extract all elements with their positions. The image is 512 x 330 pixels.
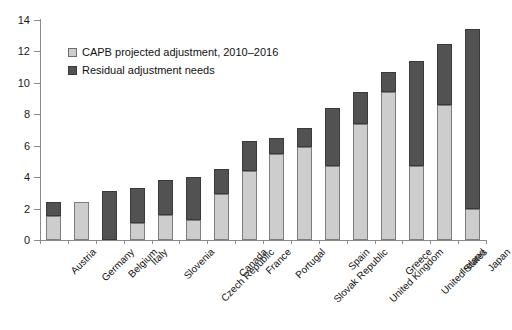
bar-segment-capb (186, 220, 201, 240)
bar-segment-capb (242, 171, 257, 240)
y-axis-tick-label: 8 (4, 109, 30, 120)
y-axis-tick-label: 0 (4, 235, 30, 246)
bar-segment-residual (158, 180, 173, 215)
x-axis-tick (458, 240, 459, 244)
bar-segment-capb (465, 209, 480, 240)
bar-segment-capb (269, 154, 284, 240)
bar-segment-residual (102, 191, 117, 240)
bar-segment-residual (186, 177, 201, 219)
x-axis-tick (124, 240, 125, 244)
bar-group (465, 20, 480, 240)
bar-segment-capb (409, 166, 424, 240)
bar-segment-capb (74, 202, 89, 240)
legend-label-residual: Residual adjustment needs (82, 65, 215, 76)
bar-segment-residual (381, 72, 396, 92)
bar-segment-residual (409, 61, 424, 166)
legend-label-capb: CAPB projected adjustment, 2010–2016 (82, 47, 278, 58)
chart-legend: CAPB projected adjustment, 2010–2016 Res… (68, 44, 278, 80)
bar-segment-residual (437, 44, 452, 105)
bar-segment-residual (269, 138, 284, 154)
x-axis-tick (347, 240, 348, 244)
bar-segment-capb (130, 223, 145, 240)
bar-group (325, 20, 340, 240)
legend-swatch-light-icon (68, 48, 77, 57)
bar-segment-residual (214, 169, 229, 194)
x-axis-tick (96, 240, 97, 244)
bar-segment-capb (46, 216, 61, 240)
bar-segment-residual (46, 202, 61, 216)
bar-group (297, 20, 312, 240)
y-axis-tick-label: 10 (4, 78, 30, 89)
x-axis-tick (40, 240, 41, 244)
bar-group (409, 20, 424, 240)
bar-group (381, 20, 396, 240)
bar-group (437, 20, 452, 240)
bar-segment-capb (381, 92, 396, 240)
x-axis-tick (375, 240, 376, 244)
bar-segment-residual (353, 92, 368, 123)
x-axis-tick (179, 240, 180, 244)
x-axis-tick (319, 240, 320, 244)
x-axis-tick (291, 240, 292, 244)
y-axis-tick-label: 6 (4, 141, 30, 152)
x-axis-tick (207, 240, 208, 244)
bar-segment-residual (242, 141, 257, 171)
bar-segment-residual (465, 29, 480, 208)
bar-segment-residual (130, 188, 145, 223)
bar-group (46, 20, 61, 240)
legend-item-capb: CAPB projected adjustment, 2010–2016 (68, 44, 278, 60)
x-axis-tick (402, 240, 403, 244)
x-axis-tick (263, 240, 264, 244)
legend-item-residual: Residual adjustment needs (68, 62, 278, 78)
legend-swatch-dark-icon (68, 66, 77, 75)
bar-segment-capb (158, 215, 173, 240)
y-axis-tick-label: 12 (4, 46, 30, 57)
y-axis-tick-label: 4 (4, 172, 30, 183)
bar-segment-capb (297, 147, 312, 240)
bar-segment-capb (353, 124, 368, 240)
bar-segment-residual (297, 128, 312, 147)
x-axis-tick (152, 240, 153, 244)
bar-segment-capb (325, 166, 340, 240)
y-axis-tick-label: 14 (4, 15, 30, 26)
bar-group (353, 20, 368, 240)
bar-segment-residual (325, 108, 340, 166)
bar-segment-capb (214, 194, 229, 240)
x-axis-tick (235, 240, 236, 244)
x-axis-tick (486, 240, 487, 244)
bar-segment-capb (437, 105, 452, 240)
x-axis-tick (430, 240, 431, 244)
y-axis-tick-label: 2 (4, 204, 30, 215)
x-axis-tick (68, 240, 69, 244)
